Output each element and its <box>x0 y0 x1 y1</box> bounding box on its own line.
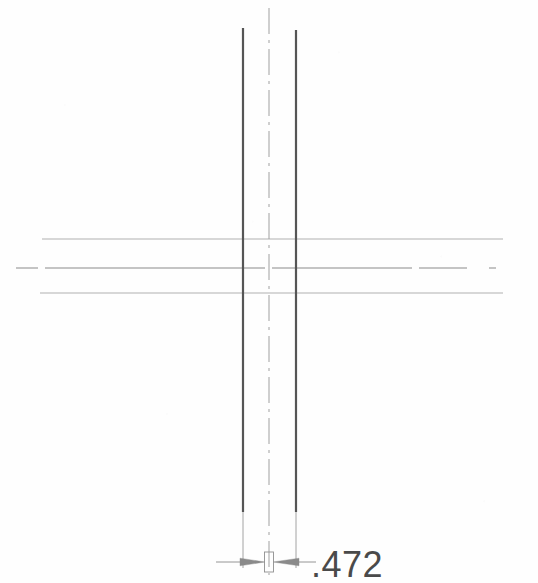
drawing-vector-layer <box>0 0 538 583</box>
dimension-arrowhead-right <box>273 558 299 566</box>
dimension-value-label: .472 <box>311 547 383 583</box>
drawing-canvas: .472 <box>0 0 538 583</box>
dimension-arrowhead-left <box>240 558 265 566</box>
